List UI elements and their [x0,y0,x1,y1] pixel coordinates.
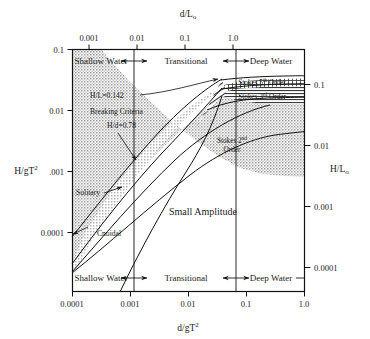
annotation-solitary: Solitary [76,188,100,197]
x-top-tick-label: 0.01 [130,33,145,43]
band-label-stokes-3rd-order: Stokes 3rd Order [238,91,286,101]
region-label-transitional-bottom: Transitional [164,273,208,283]
y-tick-label: 0.01 [49,106,64,116]
region-label-deep-water-bottom: Deep Water [250,273,292,283]
region-label-deep-water: Deep Water [250,56,292,66]
annotation-hl-0142: H/L=0.142 [90,91,124,100]
y-tick-label: 0.1 [53,45,64,55]
y-right-tick-label: 0.001 [314,202,333,212]
y-right-tick-label: 0.01 [314,141,329,151]
annotation-cnoidal: Cnoidal [97,229,121,238]
x-tick-label: 0.1 [241,299,252,309]
x-tick-label: 1.0 [299,299,310,309]
band-label-stokes-5th-order: Stokes 5th Order [238,77,286,87]
region-label-shallow-water-bottom: Shallow Water [75,273,128,283]
region-label-shallow-water: Shallow Water [75,56,128,66]
x-top-tick-label: 1.0 [228,33,239,43]
wave-theory-validity-chart: 0.0001 0.001 0.01 0.1 1.0 0.001 0.01 0.1… [0,0,370,339]
x-tick-label: 0.0001 [60,299,83,309]
region-label-small-amplitude: Small Amplitude [169,206,238,217]
band-label-stokes-2nd-order-line2: Order [224,146,241,154]
right-axis-title: H/Lo [330,164,349,176]
y-tick-label: .001 [49,167,64,177]
x-tick-label: 0.01 [181,299,196,309]
bottom-region-labels: Shallow Water Transitional Deep Water [75,273,293,283]
x-top-tick-label: 0.001 [79,33,98,43]
region-label-transitional: Transitional [164,56,208,66]
x-top-tick-label: 0.1 [180,33,191,43]
left-axis-title: H/gT2 [14,164,38,176]
y-right-tick-label: 0.0001 [314,263,337,273]
top-axis-title: d/Lo [180,9,197,21]
x-tick-label: 0.001 [120,299,139,309]
y-tick-label: 0.0001 [41,228,64,238]
y-right-tick-label: 0.1 [314,80,325,90]
leader-hl-0142 [140,79,218,95]
annotation-breaking-criteria: Breaking Criteria [90,107,144,116]
chart-svg: 0.0001 0.001 0.01 0.1 1.0 0.001 0.01 0.1… [0,0,370,339]
top-region-labels: Shallow Water Transitional Deep Water [75,56,293,66]
bottom-axis-title: d/gT2 [177,321,199,333]
annotation-hd-078: H/d=0.78 [107,121,136,130]
